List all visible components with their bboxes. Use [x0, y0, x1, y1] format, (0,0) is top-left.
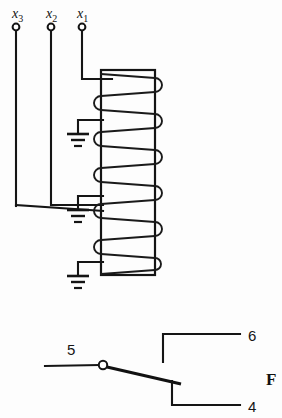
terminal-6-conductor	[163, 334, 240, 362]
coil-turn-front-3	[101, 146, 155, 150]
switch-pole-label: 5	[67, 341, 75, 358]
switch-pole-lead	[45, 365, 99, 366]
terminal-4-conductor	[172, 381, 240, 405]
terminal-node-x3[interactable]	[13, 24, 20, 31]
coil-turn-back-2	[101, 128, 155, 132]
coil-turn-back-5	[101, 236, 155, 240]
figure-caption-clipped: F	[266, 370, 276, 389]
switch-terminal-6[interactable]: 6	[163, 327, 256, 362]
terminal-node-x1[interactable]	[79, 24, 86, 31]
coil-turn-back-3	[101, 164, 155, 168]
ground-middle-lead	[78, 196, 103, 210]
lead-wire-x1	[82, 31, 112, 79]
input-terminal-nodes	[13, 24, 86, 31]
input-terminal-labels: x3 x2 x1	[11, 6, 88, 24]
terminal-node-x2[interactable]	[48, 24, 55, 31]
coil-winding	[94, 74, 162, 274]
coil-turn-front-4	[101, 182, 155, 186]
ground-lower-lead	[78, 262, 103, 276]
switch-blade[interactable]	[107, 367, 181, 384]
coil-turn-back-1	[101, 92, 155, 96]
coil-turn-front-6	[101, 254, 155, 258]
coil-turn-front-2	[101, 110, 155, 114]
switch-terminal-4[interactable]: 4	[172, 381, 256, 415]
coil-turn-back-6	[101, 270, 155, 274]
coil-turn-front-5	[101, 218, 155, 222]
coil-turn-back-4	[101, 200, 155, 204]
label-x2: x2	[45, 6, 57, 24]
terminal-6-label: 6	[248, 327, 256, 344]
label-x1: x1	[76, 6, 88, 24]
label-x3: x3	[11, 6, 23, 24]
terminal-4-label: 4	[248, 398, 256, 415]
coil-turn-front-1	[101, 74, 155, 78]
switch-pivot-node[interactable]	[99, 361, 107, 369]
ground-symbol-lower	[67, 262, 103, 288]
schematic-canvas: x3 x2 x1	[0, 0, 282, 418]
transformer-core	[101, 70, 155, 275]
schematic-drawing: x3 x2 x1	[0, 0, 282, 418]
